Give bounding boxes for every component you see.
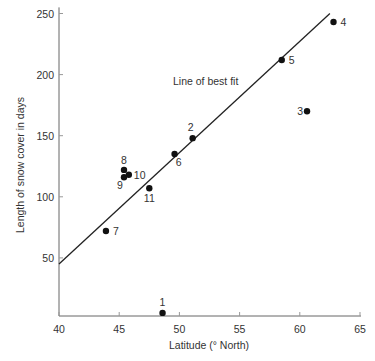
- x-tick-label: 60: [294, 323, 306, 335]
- data-point: 1: [159, 296, 165, 316]
- data-points: 1234567891011: [103, 16, 347, 316]
- data-point: 7: [103, 225, 119, 237]
- best-fit-label: Line of best fit: [173, 75, 238, 87]
- data-point: 10: [126, 169, 146, 181]
- y-axis-label: Length of snow cover in days: [14, 97, 26, 233]
- point-label: 4: [341, 16, 347, 28]
- data-point: 8: [121, 154, 127, 173]
- axes: [59, 7, 361, 316]
- point-label: 11: [144, 192, 155, 204]
- x-tick-label: 40: [53, 323, 65, 335]
- point-label: 1: [160, 296, 166, 308]
- data-point: 4: [330, 16, 346, 28]
- data-point: 3: [297, 105, 310, 117]
- y-tick-label: 200: [36, 69, 54, 81]
- y-tick-label: 150: [36, 130, 54, 142]
- point-label: 10: [134, 169, 146, 181]
- x-tick-label: 55: [234, 323, 246, 335]
- data-point: 11: [144, 185, 155, 204]
- data-point: 9: [117, 174, 127, 191]
- x-tick-label: 50: [174, 323, 186, 335]
- y-tick-label: 250: [36, 8, 54, 20]
- y-tick-label: 50: [42, 252, 54, 264]
- point-label: 2: [188, 121, 194, 133]
- y-tick-label: 100: [36, 191, 54, 203]
- x-tick-label: 65: [354, 323, 366, 335]
- point-label: 9: [117, 179, 123, 191]
- point-label: 5: [289, 54, 295, 66]
- point-label: 3: [297, 105, 303, 117]
- data-point: 5: [279, 54, 295, 66]
- point-label: 7: [113, 225, 119, 237]
- x-axis-ticks: 404550556065: [53, 312, 366, 335]
- point-label: 8: [121, 154, 127, 166]
- point-label: 6: [176, 156, 182, 168]
- scatter-chart: 50100150200250 404550556065 Line of best…: [0, 0, 375, 361]
- x-tick-label: 45: [113, 323, 125, 335]
- x-axis-label: Latitude (° North): [169, 339, 249, 351]
- data-point: 2: [188, 121, 196, 141]
